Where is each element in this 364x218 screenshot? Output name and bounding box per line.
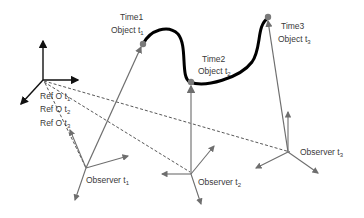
observer-1-label: Observer t1 [86,175,130,186]
object-3-time-label: Time3 [281,21,305,31]
object-1-time-label: Time1 [120,12,144,22]
object-2-time-label: Time2 [202,54,226,64]
ref-label-1: Ref O t1 [40,91,71,102]
object-2-point [188,79,194,85]
dashed-ref-to-observer-3 [44,81,290,152]
reference-to-observer-lines [44,81,290,172]
object-3-label: Object t3 [278,34,311,45]
observer-2-label: Observer t2 [198,177,242,188]
observer-1-axis-down [75,168,86,200]
ref-label-2: Ref O t2 [40,104,71,115]
observer-1-axis-right [86,156,128,168]
object-1-label: Object t1 [111,25,144,36]
observer-2-axis-up-right [191,146,214,174]
object-1-point [140,41,146,47]
observer-3-axis-left [256,152,288,168]
ref-label-3: Ref O t3 [40,118,71,129]
spacetime-diagram: Time1 Object t1 Time2 Object t2 Time3 Ob… [0,0,364,218]
observer-1-axis-up [70,130,86,168]
object-2-label: Object t2 [198,66,231,77]
observer-3-label: Observer t3 [300,147,344,158]
object-3-point [265,14,271,20]
observer-1-to-object-1-vector [86,47,141,168]
